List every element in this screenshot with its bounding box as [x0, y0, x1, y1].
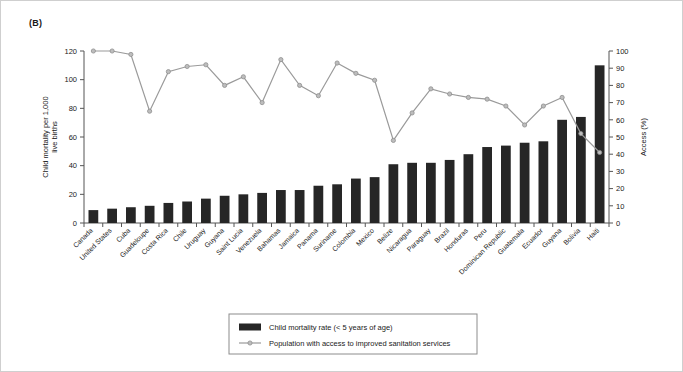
line-marker-point [560, 95, 564, 99]
y-axis-right-tick-label: 60 [616, 116, 624, 125]
bar [520, 143, 530, 223]
x-axis-category-labels: CanadaUnited StatesCubaGuadeloupeCosta R… [72, 226, 601, 276]
chart-legend: Child mortality rate (< 5 years of age)P… [229, 314, 477, 354]
y-axis-left-tick-label: 80 [69, 104, 77, 113]
bar [332, 184, 342, 223]
y-axis-left-title-line: Child mortality per 1,000 [41, 96, 50, 177]
bar [89, 210, 99, 223]
bar [595, 65, 605, 223]
line-marker-point [298, 83, 302, 87]
y-axis-left-tick-label: 100 [64, 75, 77, 84]
y-axis-right-title: Access (%) [639, 118, 648, 156]
y-axis-right-tick-label: 80 [616, 81, 624, 90]
line-marker-point [598, 150, 602, 154]
bar [257, 193, 267, 223]
y-axis-left-ticks: 020406080100120 [64, 47, 84, 228]
bar [445, 160, 455, 223]
line-marker-point [279, 58, 283, 62]
line-path [93, 51, 599, 152]
y-axis-left-title-line: live births [50, 121, 59, 153]
y-axis-right-tick-label: 90 [616, 64, 624, 73]
x-axis-category-label: Chile [172, 227, 188, 243]
y-axis-right-tick-label: 50 [616, 133, 624, 142]
y-axis-right-tick-label: 10 [616, 202, 624, 211]
y-axis-right-tick-label: 40 [616, 150, 624, 159]
line-marker-point [110, 49, 114, 53]
x-axis-category-label: Guyana [541, 227, 564, 250]
line-marker-point [185, 64, 189, 68]
x-axis-category-label: Uruguay [183, 226, 208, 251]
x-axis-category-label: Mexico [355, 227, 376, 248]
bar [389, 164, 399, 223]
x-axis-ticks [84, 223, 609, 227]
y-axis-right-tick-label: 20 [616, 184, 624, 193]
legend-swatch-bar [239, 324, 261, 331]
bar [201, 199, 211, 223]
line-marker-point [391, 138, 395, 142]
line-marker-point [354, 71, 358, 75]
y-axis-right-tick-label: 30 [616, 167, 624, 176]
x-axis-category-label: Bolivia [562, 227, 582, 247]
figure-container: (B) Child mortality per 1,000live births… [0, 0, 683, 372]
y-axis-left-tick-label: 0 [73, 219, 77, 228]
bar [407, 163, 417, 223]
bar [164, 203, 174, 223]
bar [314, 186, 324, 223]
y-axis-right-ticks: 0102030405060708090100 [609, 47, 629, 228]
legend-box [229, 314, 477, 354]
line-marker-point [129, 52, 133, 56]
bar [501, 146, 511, 223]
y-axis-right-title-text: Access (%) [639, 118, 648, 156]
bar [426, 163, 436, 223]
bar [182, 202, 192, 224]
line-marker-point [166, 70, 170, 74]
line-marker-point [223, 83, 227, 87]
y-axis-left-tick-label: 60 [69, 133, 77, 142]
line-marker-point [335, 61, 339, 65]
bar [276, 190, 286, 223]
x-axis-category-label: Peru [472, 227, 487, 242]
line-marker-point [373, 78, 377, 82]
line-marker-point [260, 101, 264, 105]
y-axis-left-title: Child mortality per 1,000live births [41, 96, 59, 177]
x-axis-category-label: Haiti [585, 226, 600, 241]
legend-swatch-marker [248, 341, 252, 345]
y-axis-right-tick-label: 0 [616, 219, 620, 228]
bar [145, 206, 155, 223]
line-series [91, 49, 601, 155]
line-marker-point [241, 75, 245, 79]
bar [370, 177, 380, 223]
line-marker-point [410, 111, 414, 115]
bar [464, 154, 474, 223]
line-marker-point [204, 63, 208, 67]
y-axis-left-tick-label: 40 [69, 161, 77, 170]
bar [239, 194, 249, 223]
bar [107, 209, 117, 223]
y-axis-left-tick-label: 20 [69, 190, 77, 199]
bar [557, 120, 567, 223]
line-marker-point [91, 49, 95, 53]
y-axis-left-tick-label: 120 [64, 47, 77, 56]
line-marker-point [148, 109, 152, 113]
line-marker-point [316, 94, 320, 98]
x-axis-category-label: Ecuador [521, 226, 545, 250]
y-axis-right-tick-label: 100 [616, 47, 629, 56]
line-marker-point [504, 104, 508, 108]
bar [351, 179, 361, 223]
line-marker-point [579, 131, 583, 135]
bar [482, 147, 492, 223]
line-marker-point [448, 92, 452, 96]
bar [539, 141, 549, 223]
chart-svg: Child mortality per 1,000live births Acc… [1, 1, 683, 372]
line-marker-point [485, 97, 489, 101]
line-marker-point [541, 104, 545, 108]
legend-item-label: Population with access to improved sanit… [269, 339, 451, 348]
line-marker-point [523, 123, 527, 127]
bar [295, 190, 305, 223]
y-axis-right-tick-label: 70 [616, 98, 624, 107]
x-axis-category-label: Cuba [115, 227, 132, 244]
bar-series [89, 65, 605, 223]
line-marker-point [429, 87, 433, 91]
bar [220, 196, 230, 223]
legend-item-label: Child mortality rate (< 5 years of age) [269, 323, 393, 332]
